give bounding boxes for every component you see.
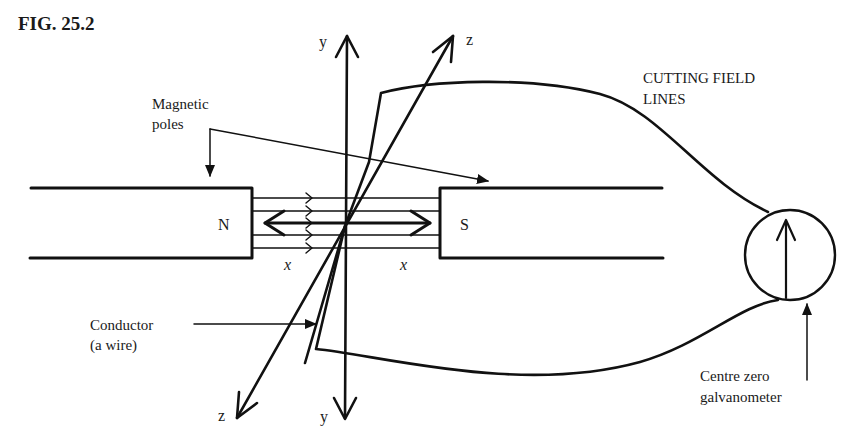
y-axis-label-top: y	[319, 33, 327, 51]
x-axis-label-left: x	[283, 256, 291, 273]
conductor-wire	[316, 82, 778, 375]
south-pole-label: S	[460, 216, 469, 233]
galvanometer-label-line2: galvanometer	[700, 389, 782, 405]
conductor-label-line1: Conductor	[90, 317, 153, 333]
cutting-field-lines-label-line1: CUTTING FIELD	[643, 70, 755, 86]
galvanometer-label-line1: Centre zero	[700, 368, 770, 384]
south-pole-pointer-arrow-icon	[210, 129, 488, 181]
conductor-loop	[305, 82, 778, 375]
south-magnet: S	[440, 188, 663, 258]
x-axis-label-right: x	[399, 256, 407, 273]
z-axis-label-top: z	[466, 31, 473, 48]
z-axis-label-bottom: z	[218, 407, 225, 424]
galvanometer	[745, 210, 835, 300]
galvanometer-dial	[745, 210, 835, 300]
conductor-label-line2: (a wire)	[90, 337, 137, 354]
cutting-field-lines-label-line2: LINES	[643, 91, 686, 107]
z-axis-top-arrowhead-icon	[433, 36, 453, 62]
galvanometer-annotation: Centre zero galvanometer	[700, 304, 807, 405]
figure-title: FIG. 25.2	[18, 13, 95, 34]
y-axis: y y	[319, 33, 358, 426]
induction-diagram: FIG. 25.2 N S x x y y	[0, 0, 852, 444]
y-axis-label-bottom: y	[320, 408, 328, 426]
conductor-annotation: Conductor (a wire)	[90, 317, 316, 354]
magnetic-poles-label-line2: poles	[152, 116, 184, 132]
magnetic-poles-annotation: Magnetic poles	[152, 96, 488, 181]
south-magnet-outline	[440, 188, 663, 258]
north-magnet: N	[30, 188, 252, 258]
north-pole-label: N	[218, 216, 230, 233]
cutting-field-lines-annotation: CUTTING FIELD LINES	[643, 70, 755, 107]
magnetic-poles-label-line1: Magnetic	[152, 96, 209, 112]
